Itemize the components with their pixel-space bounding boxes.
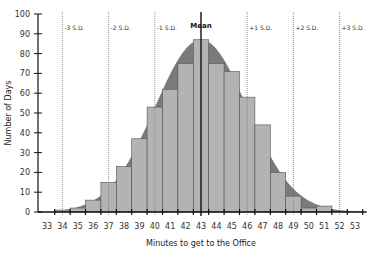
normal-distribution-chart: -3 S.D.-2 S.D.-1 S.D.Mean+1 S.D.+2 S.D.+… bbox=[0, 0, 373, 254]
histogram-bar bbox=[317, 206, 332, 212]
x-axis-title: Minutes to get to the Office bbox=[146, 239, 256, 248]
sd-label: -1 S.D. bbox=[157, 24, 177, 31]
histogram-bar bbox=[224, 71, 239, 212]
x-tick-label: 46 bbox=[242, 222, 252, 231]
x-tick-label: 33 bbox=[42, 222, 52, 231]
x-tick-label: 47 bbox=[258, 222, 268, 231]
x-tick-label: 36 bbox=[88, 222, 98, 231]
x-tick-label: 49 bbox=[288, 222, 298, 231]
histogram-bar bbox=[163, 89, 178, 212]
x-tick-label: 41 bbox=[165, 222, 175, 231]
x-tick-label: 42 bbox=[181, 222, 191, 231]
y-tick-label: 0 bbox=[25, 208, 30, 217]
x-tick-label: 48 bbox=[273, 222, 283, 231]
y-tick-label: 90 bbox=[20, 30, 30, 39]
x-tick-label: 50 bbox=[304, 222, 314, 231]
histogram-bar bbox=[255, 125, 270, 212]
x-tick-label: 52 bbox=[335, 222, 345, 231]
x-tick-label: 51 bbox=[319, 222, 329, 231]
sd-label: +2 S.D. bbox=[295, 24, 318, 31]
x-tick-label: 45 bbox=[227, 222, 237, 231]
y-tick-label: 60 bbox=[20, 89, 30, 98]
x-tick-label: 37 bbox=[104, 222, 114, 231]
x-tick-label: 44 bbox=[211, 222, 221, 231]
histogram-bar bbox=[270, 172, 285, 212]
x-tick-label: 38 bbox=[119, 222, 129, 231]
x-tick-label: 40 bbox=[150, 222, 160, 231]
y-tick-label: 30 bbox=[20, 149, 30, 158]
x-tick-label: 35 bbox=[73, 222, 83, 231]
sd-label: +1 S.D. bbox=[249, 24, 272, 31]
y-tick-label: 10 bbox=[20, 188, 30, 197]
x-tick-label: 39 bbox=[134, 222, 144, 231]
sd-label: -3 S.D. bbox=[64, 24, 84, 31]
y-tick-label: 40 bbox=[20, 129, 30, 138]
histogram-bar bbox=[209, 64, 224, 213]
histogram-bar bbox=[178, 64, 193, 213]
y-tick-label: 70 bbox=[20, 69, 30, 78]
histogram-bar bbox=[132, 139, 147, 212]
histogram-bar bbox=[86, 200, 101, 212]
y-tick-label: 50 bbox=[20, 109, 30, 118]
y-axis-title: Number of Days bbox=[4, 81, 13, 146]
y-tick-label: 100 bbox=[15, 10, 30, 19]
x-tick-label: 43 bbox=[196, 222, 206, 231]
x-tick-label: 53 bbox=[350, 222, 360, 231]
y-tick-label: 80 bbox=[20, 50, 30, 59]
y-tick-label: 20 bbox=[20, 168, 30, 177]
sd-label: +3 S.D. bbox=[342, 24, 365, 31]
sd-label: -2 S.D. bbox=[111, 24, 131, 31]
histogram-bar bbox=[116, 166, 131, 212]
x-tick-label: 34 bbox=[57, 222, 67, 231]
sd-label: Mean bbox=[190, 22, 211, 30]
